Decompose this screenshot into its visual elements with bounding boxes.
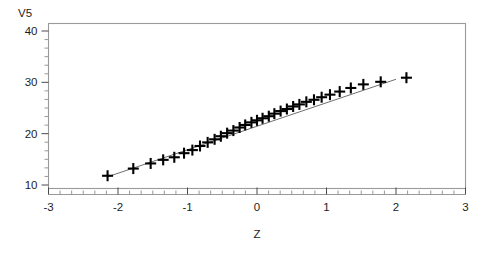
data-point-marker [345, 82, 356, 93]
data-point-marker [169, 152, 180, 163]
data-point-markers [102, 72, 412, 181]
data-point-marker [257, 113, 268, 124]
x-axis-label: Z [253, 228, 260, 240]
data-point-marker [301, 96, 312, 107]
x-tick-label: 3 [462, 201, 468, 213]
x-tick-label: 1 [323, 201, 329, 213]
data-point-marker [324, 89, 335, 100]
data-point-marker [145, 158, 156, 169]
data-point-marker [269, 108, 280, 119]
data-point-marker [401, 72, 412, 83]
data-point-marker [358, 79, 369, 90]
y-tick-label: 40 [25, 25, 38, 37]
x-tick-label: -1 [182, 201, 192, 213]
y-axis-tick-labels: 10203040 [25, 25, 38, 191]
y-tick-label: 30 [25, 76, 38, 88]
x-tick-label: -3 [43, 201, 53, 213]
y-axis-ticks [42, 31, 49, 185]
data-point-marker [334, 86, 345, 97]
data-point-marker [158, 154, 169, 165]
data-point-marker [308, 94, 319, 105]
normal-probability-plot: V5 10203040 -3-2-10123 Z [0, 0, 500, 253]
data-point-marker [128, 163, 139, 174]
plot-frame [49, 24, 466, 189]
y-axis-label: V5 [18, 7, 32, 19]
data-point-marker [316, 92, 327, 103]
data-point-marker [252, 115, 263, 126]
data-point-marker [294, 99, 305, 110]
data-point-marker [263, 111, 274, 122]
x-axis-tick-labels: -3-2-10123 [43, 201, 468, 213]
data-point-marker [246, 117, 257, 128]
x-tick-label: 0 [254, 201, 260, 213]
x-tick-label: 2 [393, 201, 399, 213]
y-tick-label: 20 [25, 128, 38, 140]
data-point-marker [102, 170, 113, 181]
data-point-marker [288, 101, 299, 112]
data-point-marker [281, 104, 292, 115]
y-tick-label: 10 [25, 179, 38, 191]
data-point-marker [275, 106, 286, 117]
x-tick-label: -2 [113, 201, 123, 213]
chart-svg: V5 10203040 -3-2-10123 Z [0, 0, 500, 253]
